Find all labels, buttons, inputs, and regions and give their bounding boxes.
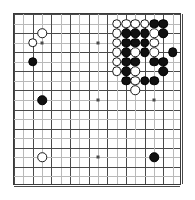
white-stone[interactable] (37, 153, 47, 163)
black-stone[interactable] (159, 67, 169, 77)
star-point (97, 156, 100, 159)
black-stone[interactable] (121, 57, 131, 67)
white-stone[interactable] (112, 67, 122, 77)
black-stone[interactable] (131, 28, 141, 38)
white-stone[interactable] (140, 19, 150, 29)
black-stone[interactable] (159, 28, 169, 38)
grid-line-horizontal (14, 71, 180, 72)
black-stone[interactable] (149, 153, 159, 163)
grid-line-vertical (51, 14, 52, 184)
star-point (153, 99, 156, 102)
grid-line-horizontal (14, 110, 180, 111)
grid-line-vertical (70, 14, 71, 184)
white-stone[interactable] (131, 86, 141, 96)
white-stone[interactable] (37, 28, 47, 38)
grid-line-vertical (14, 14, 15, 184)
grid-line-horizontal (14, 119, 180, 120)
black-stone[interactable] (37, 95, 47, 105)
white-stone[interactable] (131, 76, 141, 86)
black-stone[interactable] (131, 38, 141, 48)
white-stone[interactable] (131, 19, 141, 29)
grid-line-vertical (107, 14, 108, 184)
black-stone[interactable] (149, 76, 159, 86)
go-board-container (0, 0, 195, 200)
black-stone[interactable] (121, 28, 131, 38)
white-stone[interactable] (28, 38, 38, 48)
grid-line-vertical (173, 14, 174, 184)
star-point (97, 99, 100, 102)
black-stone[interactable] (121, 47, 131, 57)
white-stone[interactable] (149, 47, 159, 57)
grid-line-horizontal (14, 129, 180, 130)
black-stone[interactable] (140, 47, 150, 57)
white-stone[interactable] (112, 19, 122, 29)
grid-line-vertical (23, 14, 24, 184)
black-stone[interactable] (140, 38, 150, 48)
black-stone[interactable] (149, 19, 159, 29)
grid-line-horizontal (14, 186, 180, 187)
white-stone[interactable] (112, 28, 122, 38)
white-stone[interactable] (149, 38, 159, 48)
grid-line-horizontal (14, 148, 180, 149)
white-stone[interactable] (112, 38, 122, 48)
grid-line-vertical (79, 14, 80, 184)
white-stone[interactable] (131, 47, 141, 57)
grid-line-horizontal (14, 14, 180, 15)
black-stone[interactable] (159, 19, 169, 29)
black-stone[interactable] (121, 67, 131, 77)
white-stone[interactable] (112, 47, 122, 57)
grid-line-horizontal (14, 176, 180, 177)
black-stone[interactable] (121, 76, 131, 86)
white-stone[interactable] (112, 57, 122, 67)
grid-line-vertical (182, 14, 183, 184)
black-stone[interactable] (28, 57, 38, 67)
black-stone[interactable] (131, 57, 141, 67)
black-stone[interactable] (168, 47, 178, 57)
grid-line-horizontal (14, 167, 180, 168)
white-stone[interactable] (121, 19, 131, 29)
go-board[interactable] (13, 13, 181, 185)
grid-line-horizontal (14, 138, 180, 139)
grid-line-vertical (163, 14, 164, 184)
grid-line-vertical (61, 14, 62, 184)
white-stone[interactable] (149, 28, 159, 38)
grid-line-horizontal (14, 90, 180, 91)
black-stone[interactable] (159, 57, 169, 67)
star-point (41, 41, 44, 44)
black-stone[interactable] (149, 57, 159, 67)
black-stone[interactable] (121, 38, 131, 48)
black-stone[interactable] (140, 76, 150, 86)
grid-line-vertical (89, 14, 90, 184)
black-stone[interactable] (140, 28, 150, 38)
star-point (97, 41, 100, 44)
white-stone[interactable] (131, 67, 141, 77)
